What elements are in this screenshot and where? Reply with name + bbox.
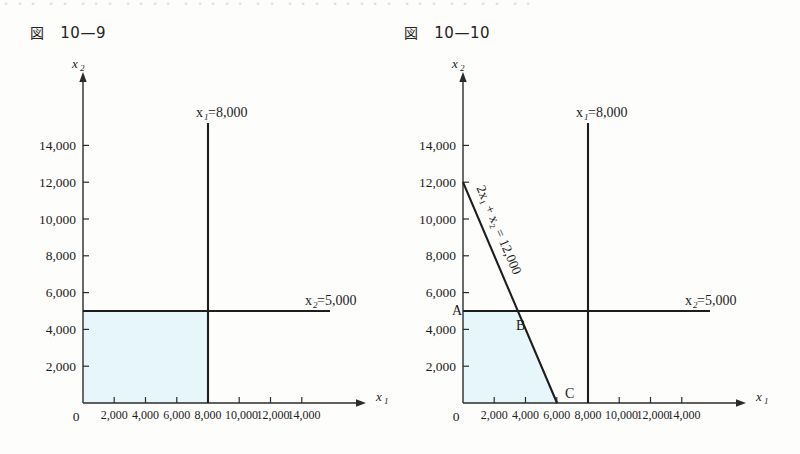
y-tick-label: 6,000 bbox=[46, 285, 77, 300]
constraint-label-x2-10-9: x 2 =5,000 bbox=[305, 293, 356, 310]
y-axis-subscript: 2 bbox=[460, 63, 465, 73]
x-axis-subscript: 1 bbox=[764, 396, 769, 406]
y-tick-label: 12,000 bbox=[419, 175, 456, 190]
constraint-label-eq: =5,000 bbox=[317, 293, 356, 308]
y-axis-label-10-10: x 2 bbox=[451, 56, 465, 73]
y-axis-arrow-10-9 bbox=[79, 72, 86, 82]
y-tick-label: 4,000 bbox=[46, 322, 77, 337]
constraint-label-var: x bbox=[305, 293, 312, 308]
constraint-label-budget-10-10: 2x₁ + x₂ = 12,000 bbox=[473, 183, 524, 277]
x-tick-label: 2,000 bbox=[101, 408, 128, 422]
chart-svg-10-10: 2,000 4,000 6,000 8,000 10,000 12,000 14… bbox=[400, 0, 800, 454]
y-tick-label: 12,000 bbox=[39, 175, 76, 190]
constraint-label-x2-10-10: x 2 =5,000 bbox=[685, 293, 736, 310]
chart-svg-10-9: 2,000 4,000 6,000 8,000 10,000 12,000 14… bbox=[0, 0, 400, 454]
y-tick-label: 8,000 bbox=[46, 248, 77, 263]
constraint-label-x1-10-10: x 1 =8,000 bbox=[576, 105, 627, 122]
x-tick-label: 12,000 bbox=[257, 408, 290, 422]
x-tick-label: 14,000 bbox=[668, 408, 701, 422]
x-axis-arrow-10-9 bbox=[356, 399, 366, 406]
constraint-label-var: x bbox=[685, 293, 692, 308]
x-tick-label: 8,000 bbox=[575, 408, 602, 422]
y-tick-label: 8,000 bbox=[426, 248, 457, 263]
x-axis-arrow-10-10 bbox=[736, 399, 746, 406]
constraint-label-eq: =8,000 bbox=[208, 105, 247, 120]
y-tick-label: 2,000 bbox=[426, 359, 457, 374]
constraint-label-eq: =5,000 bbox=[697, 293, 736, 308]
x-axis-label-10-10: x 1 bbox=[755, 389, 769, 406]
y-axis-name: x bbox=[71, 56, 78, 71]
y-tick-label: 2,000 bbox=[46, 359, 77, 374]
y-tick-label: 6,000 bbox=[426, 285, 457, 300]
x-tick-label: 10,000 bbox=[605, 408, 638, 422]
x-tick-label: 8,000 bbox=[195, 408, 222, 422]
constraint-label-x1-10-9: x 1 =8,000 bbox=[196, 105, 247, 122]
x-tick-label: 10,000 bbox=[225, 408, 258, 422]
page-root: ・・・ ・・ ・・・ ・・・・ ・・・・・ ・・ ・・・ ・・・・・ ・・・ ・… bbox=[0, 0, 800, 454]
x-tick-label: 2,000 bbox=[481, 408, 508, 422]
x-axis-subscript: 1 bbox=[384, 396, 389, 406]
figure-10-9: 図 10—9 bbox=[0, 0, 400, 454]
y-tick-label: 10,000 bbox=[39, 212, 76, 227]
constraint-label-var: x bbox=[196, 105, 203, 120]
feasible-region-10-9 bbox=[83, 311, 208, 403]
x-tick-label: 6,000 bbox=[163, 408, 190, 422]
feasible-region-10-10 bbox=[463, 311, 557, 403]
y-tick-label: 14,000 bbox=[39, 138, 76, 153]
x-tick-label: 4,000 bbox=[512, 408, 539, 422]
constraint-label-var: x bbox=[576, 105, 583, 120]
vertex-label-a: A bbox=[452, 303, 463, 318]
x-tick-label: 12,000 bbox=[637, 408, 670, 422]
x-tick-label: 14,000 bbox=[288, 408, 321, 422]
y-axis-arrow-10-10 bbox=[459, 72, 466, 82]
y-tick-label: 10,000 bbox=[419, 212, 456, 227]
constraint-label-eq: =8,000 bbox=[588, 105, 627, 120]
y-tick-label: 4,000 bbox=[426, 322, 457, 337]
y-tick-label: 14,000 bbox=[419, 138, 456, 153]
y-axis-label-10-9: x 2 bbox=[71, 56, 85, 73]
x-axis-name: x bbox=[755, 389, 762, 404]
origin-label-10-10: 0 bbox=[453, 409, 460, 424]
vertex-label-c: C bbox=[565, 386, 574, 401]
x-axis-name: x bbox=[375, 389, 382, 404]
figure-10-10: 図 10—10 bbox=[400, 0, 800, 454]
x-axis-label-10-9: x 1 bbox=[375, 389, 389, 406]
y-axis-subscript: 2 bbox=[80, 63, 85, 73]
vertex-label-b: B bbox=[516, 318, 525, 333]
x-tick-label: 4,000 bbox=[132, 408, 159, 422]
origin-label-10-9: 0 bbox=[73, 409, 80, 424]
y-axis-name: x bbox=[451, 56, 458, 71]
x-tick-label: 6,000 bbox=[543, 408, 570, 422]
